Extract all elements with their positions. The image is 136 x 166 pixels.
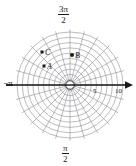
point-marker-C (41, 51, 44, 54)
axis-label-negative-pi: −π (3, 79, 13, 88)
fraction-pi-2: π 2 (62, 143, 69, 164)
fraction-denominator: 2 (58, 15, 69, 25)
fraction-3pi-2: 3π 2 (58, 4, 69, 25)
point-marker-B (70, 53, 74, 57)
axis-label-three-pi-over-two: 3π 2 (58, 4, 69, 25)
axis-label-pi-over-two: π 2 (62, 143, 69, 164)
point-label-B: B (75, 52, 80, 60)
polar-grid-figure: 3π 2 π 2 −π 5 10 A B C (0, 0, 136, 166)
axis-arrow-right-icon (125, 81, 133, 88)
fraction-numerator: π (62, 143, 69, 154)
radial-tick-label-5: 5 (93, 88, 97, 95)
radial-tick-label-10: 10 (115, 88, 122, 95)
point-marker-A (43, 65, 46, 68)
point-label-A: A (47, 63, 52, 71)
fraction-denominator: 2 (62, 154, 69, 164)
point-label-C: C (45, 49, 50, 57)
fraction-numerator: 3π (58, 4, 69, 15)
